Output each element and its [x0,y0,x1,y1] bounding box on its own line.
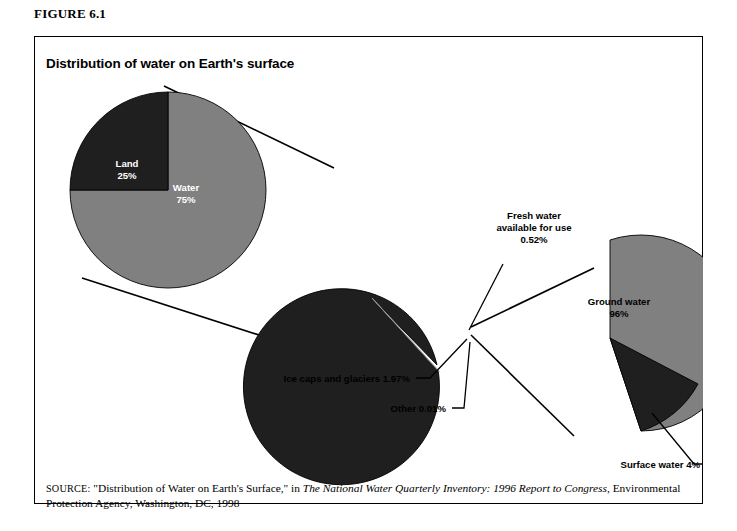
slice-land-label: Land [116,158,139,169]
source-prefix: SOURCE: [46,483,90,494]
slice-ground-water-value: 96% [609,308,629,319]
connector-pie2-to-pie3 [471,268,594,436]
source-italic-title: The National Water Quarterly Inventory: … [303,482,607,494]
connector-lower-line-2 [471,335,574,436]
ice-caps-callout-label: Ice caps and glaciers 1.97% [284,373,411,384]
slice-salt-water [243,289,439,485]
fresh-water-callout-line3: 0.52% [520,234,548,245]
fresh-water-callout: Fresh water available for use 0.52% [469,210,572,330]
fresh-water-callout-line1: Fresh water [507,210,561,221]
fresh-water-callout-line2: available for use [496,222,571,233]
surface-water-callout-label: Surface water 4% [621,459,701,470]
all-water-pie: Salt water 97.5% [243,230,440,485]
source-note: SOURCE: "Distribution of Water on Earth'… [46,481,694,512]
figure-page: FIGURE 6.1 Distribution of water on Eart… [0,0,737,531]
pie-chart-canvas: Land 25% Water 75% Salt water 97.5% Grou… [34,36,703,504]
other-callout-label: Other 0.01% [391,403,447,414]
connector-upper-line-2 [471,268,594,327]
slice-water-value: 75% [176,194,196,205]
earth-surface-pie: Land 25% Water 75% [70,92,266,288]
source-text-before: "Distribution of Water on Earth's Surfac… [90,482,302,494]
figure-number-label: FIGURE 6.1 [34,6,106,22]
slice-salt-water-label: Salt water [341,230,387,241]
fresh-water-pie: Ground water 96% [588,235,703,431]
slice-ground-water-label: Ground water [588,296,651,307]
slice-land-value: 25% [117,170,137,181]
slice-salt-water-value: 97.5% [350,242,378,253]
slice-water-label: Water [173,182,200,193]
